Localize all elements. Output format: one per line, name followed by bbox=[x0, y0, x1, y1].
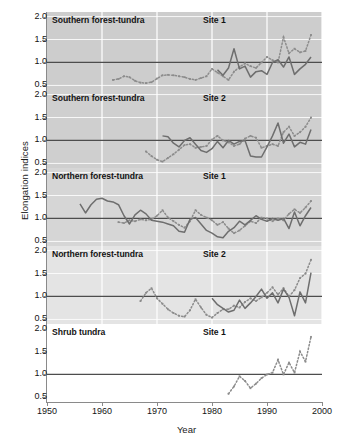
y-tick-mark bbox=[42, 241, 46, 242]
x-tick-label: 1980 bbox=[192, 406, 232, 416]
y-tick-mark bbox=[42, 251, 46, 252]
panel-title-site: Site 1 bbox=[203, 171, 226, 181]
y-tick-mark bbox=[42, 62, 46, 63]
y-tick-label: 1.5 bbox=[21, 190, 47, 200]
panel-title-region: Southern forest-tundra bbox=[52, 15, 144, 25]
y-tick-label: 1.5 bbox=[21, 112, 47, 122]
y-tick-mark bbox=[42, 397, 46, 398]
panel-title-site: Site 2 bbox=[203, 93, 226, 103]
x-tick-label: 1970 bbox=[137, 406, 177, 416]
y-tick-mark bbox=[42, 40, 46, 41]
y-tick-mark bbox=[42, 118, 46, 119]
y-tick-mark bbox=[42, 85, 46, 86]
y-tick-label: 1.0 bbox=[21, 368, 47, 378]
y-tick-label: 2.0 bbox=[21, 167, 47, 177]
y-tick-mark bbox=[42, 95, 46, 96]
y-tick-label: 0.5 bbox=[21, 391, 47, 401]
y-tick-label: 1.0 bbox=[21, 134, 47, 144]
x-tick-mark bbox=[157, 402, 158, 406]
x-axis-title: Year bbox=[44, 424, 329, 435]
x-tick-label: 2000 bbox=[302, 406, 337, 416]
y-tick-label: 1.0 bbox=[21, 290, 47, 300]
x-tick-mark bbox=[267, 402, 268, 406]
x-tick-label: 1960 bbox=[82, 406, 122, 416]
y-tick-mark bbox=[42, 352, 46, 353]
x-tick-mark bbox=[102, 402, 103, 406]
y-tick-label: 1.5 bbox=[21, 34, 47, 44]
y-tick-mark bbox=[42, 296, 46, 297]
y-tick-mark bbox=[42, 374, 46, 375]
x-axis-line bbox=[47, 402, 322, 403]
y-tick-mark bbox=[42, 319, 46, 320]
panel-title-site: Site 2 bbox=[203, 249, 226, 259]
y-tick-mark bbox=[42, 218, 46, 219]
y-tick-label: 2.0 bbox=[21, 245, 47, 255]
panel-title-region: Northern forest-tundra bbox=[52, 171, 143, 181]
y-tick-mark bbox=[42, 173, 46, 174]
panel-title-region: Shrub tundra bbox=[52, 327, 105, 337]
y-tick-mark bbox=[42, 17, 46, 18]
panel-title-site: Site 1 bbox=[203, 327, 226, 337]
y-tick-label: 1.5 bbox=[21, 346, 47, 356]
x-tick-mark bbox=[322, 402, 323, 406]
y-tick-mark bbox=[42, 196, 46, 197]
panel-title-region: Northern forest-tundra bbox=[52, 249, 143, 259]
panel-title-region: Southern forest-tundra bbox=[52, 93, 144, 103]
x-tick-label: 1950 bbox=[27, 406, 67, 416]
y-tick-mark bbox=[42, 274, 46, 275]
y-tick-mark bbox=[42, 140, 46, 141]
y-tick-label: 1.5 bbox=[21, 268, 47, 278]
y-tick-label: 2.0 bbox=[21, 323, 47, 333]
y-tick-label: 2.0 bbox=[21, 89, 47, 99]
y-tick-mark bbox=[42, 329, 46, 330]
x-tick-label: 1990 bbox=[247, 406, 287, 416]
y-tick-label: 2.0 bbox=[21, 11, 47, 21]
x-tick-mark bbox=[212, 402, 213, 406]
y-tick-label: 1.0 bbox=[21, 212, 47, 222]
x-tick-mark bbox=[47, 402, 48, 406]
panel-title-site: Site 1 bbox=[203, 15, 226, 25]
y-tick-mark bbox=[42, 163, 46, 164]
y-tick-label: 1.0 bbox=[21, 56, 47, 66]
